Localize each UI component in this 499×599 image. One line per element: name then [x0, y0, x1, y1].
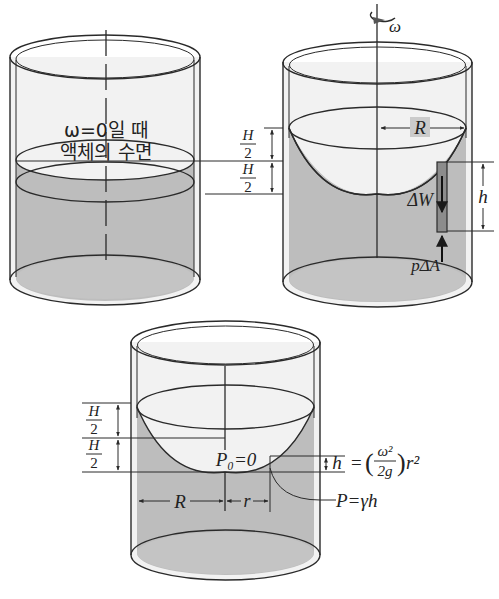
- h-label: h: [332, 452, 342, 473]
- pressure-force-label: pΔA: [410, 256, 440, 275]
- h-formula-num: ω²: [377, 443, 393, 459]
- bottom-lower-half-num: H: [88, 437, 101, 453]
- right-height-label: h: [478, 186, 488, 207]
- pressure-label: P=γh: [335, 490, 377, 511]
- left-cylinder: ω=0일 때 액체의 수면: [10, 30, 200, 305]
- left-label-line1: ω=0일 때: [64, 119, 148, 141]
- h-formula-lparen: (: [365, 448, 374, 477]
- h-formula-den: 2g: [378, 463, 394, 479]
- h-formula-rparen: ): [397, 448, 406, 477]
- r-label: r: [243, 491, 251, 511]
- weight-label: ΔW: [406, 190, 435, 210]
- vertex-pressure-label: P₀=0: [215, 449, 257, 470]
- right-lower-half-num: H: [242, 161, 255, 177]
- bottom-cylinder: H 2 H 2 P₀=0 R r h = ( ω² 2g ) r² P=γh: [82, 321, 419, 580]
- h-formula-tail: r²: [406, 452, 419, 473]
- bottom-upper-half-den: 2: [90, 421, 98, 437]
- h-formula-eq: =: [351, 452, 362, 473]
- rotation-arrowhead-icon: [373, 17, 385, 24]
- rotating-cylinder-diagram: ω=0일 때 액체의 수면 ω R: [0, 0, 499, 599]
- rotation-label: ω: [389, 17, 401, 36]
- right-upper-half-den: 2: [244, 145, 252, 161]
- bottom-radius-label: R: [173, 491, 186, 512]
- bottom-upper-half-num: H: [88, 403, 101, 419]
- bottom-bottom-inner: [137, 532, 314, 574]
- left-label-line2: 액체의 수면: [60, 141, 151, 163]
- left-bottom-inner: [16, 257, 194, 299]
- right-cylinder: ω R H 2 H 2 ΔW pΔA h: [240, 4, 494, 307]
- bottom-lower-half-den: 2: [90, 455, 98, 471]
- right-lower-half-den: 2: [244, 179, 252, 195]
- right-upper-half-num: H: [242, 127, 255, 143]
- right-radius-label: R: [413, 117, 426, 138]
